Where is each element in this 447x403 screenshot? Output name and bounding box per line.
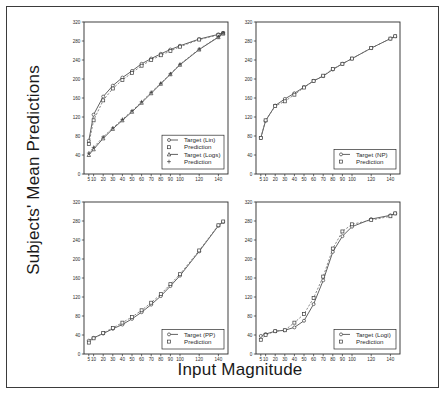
chart-top-left: 0408012016020024028032051020304050607080… — [62, 16, 234, 194]
y-tick-label: 160 — [73, 96, 81, 101]
y-tick-label: 240 — [245, 58, 253, 63]
x-tick-label: 50 — [129, 177, 135, 182]
y-tick-label: 80 — [75, 314, 81, 319]
legend: Target (NP)Prediction — [334, 150, 396, 169]
y-tick-label: 320 — [245, 20, 253, 25]
x-tick-label: 90 — [340, 177, 346, 182]
x-tick-label: 70 — [321, 177, 327, 182]
x-tick-label: 60 — [139, 177, 145, 182]
y-tick-label: 200 — [73, 257, 81, 262]
x-tick-label: 80 — [158, 177, 164, 182]
x-tick-label: 140 — [387, 177, 395, 182]
legend: Target (Logi)Prediction — [334, 330, 396, 349]
y-tick-label: 160 — [245, 276, 253, 281]
y-tick-label: 40 — [247, 333, 253, 338]
x-tick-label: 60 — [311, 177, 317, 182]
panel-top-right: 0408012016020024028032051020304050607080… — [234, 16, 406, 194]
x-tick-label: 10 — [263, 177, 269, 182]
x-tick-label: 100 — [348, 177, 356, 182]
series-target-logi — [259, 212, 396, 338]
y-tick-label: 160 — [73, 276, 81, 281]
y-tick-label: 280 — [245, 219, 253, 224]
x-tick-label: 120 — [367, 177, 375, 182]
x-tick-label: 50 — [301, 177, 307, 182]
x-tick-label: 90 — [168, 177, 174, 182]
legend-label: Prediction — [356, 338, 384, 345]
y-tick-label: 40 — [247, 153, 253, 158]
legend-label: Prediction — [184, 338, 212, 345]
y-tick-label: 240 — [73, 58, 81, 63]
y-tick-label: 280 — [245, 39, 253, 44]
legend-label: Prediction — [184, 143, 212, 150]
chart-top-right: 0408012016020024028032051020304050607080… — [234, 16, 406, 194]
y-tick-label: 40 — [75, 333, 81, 338]
y-tick-label: 120 — [73, 295, 81, 300]
x-tick-label: 30 — [110, 177, 116, 182]
series-prediction — [87, 220, 224, 344]
legend-label: Target (PP) — [184, 331, 215, 338]
x-tick-label: 20 — [273, 177, 279, 182]
legend: Target (Lin)PredictionTarget (Logs)Predi… — [162, 135, 224, 169]
legend-label: Target (Logi) — [356, 331, 391, 338]
y-tick-label: 320 — [245, 200, 253, 205]
y-tick-label: 80 — [247, 314, 253, 319]
legend-label: Prediction — [356, 158, 384, 165]
x-tick-label: 20 — [101, 177, 107, 182]
series-prediction — [259, 212, 396, 341]
y-tick-label: 200 — [73, 77, 81, 82]
legend-label: Target (Lin) — [184, 136, 215, 143]
series-prediction — [259, 35, 396, 140]
y-tick-label: 0 — [78, 172, 81, 177]
x-tick-label: 120 — [195, 177, 203, 182]
y-tick-label: 120 — [245, 295, 253, 300]
y-tick-label: 200 — [245, 257, 253, 262]
y-tick-label: 240 — [73, 238, 81, 243]
figure-root: Subjects' Mean Predictions 0408012016020… — [0, 0, 447, 403]
panel-bottom-left: 0408012016020024028032051020304050607080… — [62, 196, 234, 374]
y-tick-label: 320 — [73, 200, 81, 205]
y-tick-label: 280 — [73, 39, 81, 44]
legend: Target (PP)Prediction — [162, 330, 224, 349]
x-tick-label: 140 — [215, 177, 223, 182]
x-tick-label: 100 — [176, 177, 184, 182]
y-tick-label: 40 — [75, 153, 81, 158]
panel-bottom-right: 0408012016020024028032051020304050607080… — [234, 196, 406, 374]
y-tick-label: 120 — [73, 115, 81, 120]
y-tick-label: 0 — [78, 352, 81, 357]
x-tick-label: 70 — [149, 177, 155, 182]
y-tick-label: 120 — [245, 115, 253, 120]
x-tick-label: 30 — [282, 177, 288, 182]
legend-label: Prediction — [184, 158, 212, 165]
y-tick-label: 320 — [73, 20, 81, 25]
chart-bottom-left: 0408012016020024028032051020304050607080… — [62, 196, 234, 374]
x-tick-label: 40 — [292, 177, 298, 182]
y-tick-label: 280 — [73, 219, 81, 224]
series-target-pp — [87, 220, 224, 342]
series-target-lin — [87, 31, 224, 142]
x-tick-label: 10 — [91, 177, 97, 182]
y-axis-title: Subjects' Mean Predictions — [24, 50, 44, 290]
x-tick-label: 40 — [120, 177, 126, 182]
x-axis-title: Input Magnitude — [60, 360, 420, 380]
panel-top-left: 0408012016020024028032051020304050607080… — [62, 16, 234, 194]
series-target-np — [259, 35, 396, 140]
y-tick-label: 0 — [250, 352, 253, 357]
y-tick-label: 200 — [245, 77, 253, 82]
y-tick-label: 160 — [245, 96, 253, 101]
x-tick-label: 80 — [330, 177, 336, 182]
y-tick-label: 0 — [250, 172, 253, 177]
y-tick-label: 240 — [245, 238, 253, 243]
y-tick-label: 80 — [247, 134, 253, 139]
chart-bottom-right: 0408012016020024028032051020304050607080… — [234, 196, 406, 374]
legend-label: Target (Logs) — [184, 151, 220, 158]
legend-label: Target (NP) — [356, 151, 388, 158]
y-tick-label: 80 — [75, 134, 81, 139]
